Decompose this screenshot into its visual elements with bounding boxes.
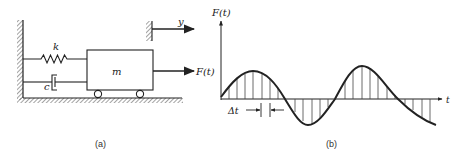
damper-label: c [44, 81, 50, 92]
damper: c [23, 75, 87, 92]
y-axis-label: F(t) [211, 7, 231, 18]
panel-b: F(t) t [211, 7, 450, 149]
fixed-wall [17, 20, 23, 100]
caption-b: (b) [326, 139, 337, 149]
displacement-label: y [177, 16, 184, 27]
x-axis-label: t [446, 95, 450, 105]
spring: k [23, 41, 87, 63]
force-label: F(t) [195, 66, 215, 77]
displacement-reference: y [146, 16, 194, 41]
time-step-ordinates [229, 67, 430, 125]
wheels [94, 90, 143, 97]
mass-label: m [112, 66, 121, 77]
panel-a: k c m F(t) y (a [17, 16, 215, 149]
caption-a: (a) [95, 139, 106, 149]
spring-label: k [53, 41, 59, 52]
time-step-label: Δt [227, 105, 239, 116]
time-step-marker: Δt [227, 103, 284, 117]
ground [17, 98, 183, 103]
mass-block: m [87, 50, 153, 90]
figure-canvas: k c m F(t) y (a [0, 0, 462, 159]
force-arrow: F(t) [153, 66, 215, 77]
